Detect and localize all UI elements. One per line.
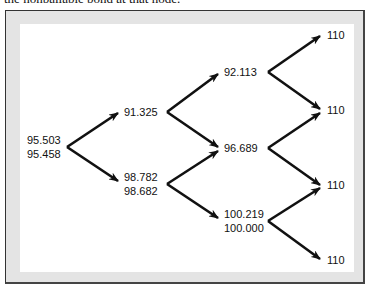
arrow-t1up-down (167, 112, 218, 147)
arrow-t2up-up (268, 36, 320, 72)
node-t2-down-value2: 100.000 (224, 221, 264, 235)
node-t1-down-value2: 98.682 (124, 184, 158, 198)
arrow-t2mid-up (268, 113, 320, 148)
node-t3-value: 110 (327, 178, 345, 192)
node-t2-up-value: 92.113 (224, 65, 257, 79)
node-t1-up-value: 91.325 (124, 105, 158, 119)
node-root-value1: 95.503 (27, 133, 61, 147)
node-t2-down-value1: 100.219 (224, 207, 264, 221)
arrow-root-down (67, 147, 118, 181)
arrow-t1down-down (167, 184, 218, 218)
arrow-t2down-up (268, 188, 320, 221)
arrow-t1down-up (167, 151, 218, 184)
arrow-t2mid-down (268, 148, 320, 185)
arrow-t2up-down (268, 72, 320, 109)
arrow-root-up (67, 113, 118, 147)
arrow-t1up-up (167, 74, 218, 112)
node-t2-mid-value: 96.689 (224, 141, 258, 155)
arrow-t2down-down (268, 221, 320, 259)
node-root-value2: 95.458 (27, 147, 61, 161)
node-t3-value: 110 (327, 103, 345, 117)
node-t3-value: 110 (327, 28, 345, 42)
node-t1-down-value1: 98.782 (124, 170, 158, 184)
node-t3-value: 110 (327, 253, 345, 267)
